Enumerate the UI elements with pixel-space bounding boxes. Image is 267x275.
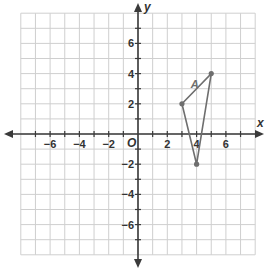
x-axis-label: x <box>256 116 265 130</box>
triangle-label: A <box>190 78 199 90</box>
x-tick-label: −6 <box>44 138 57 150</box>
origin-label: O <box>127 136 137 150</box>
vertex-point <box>194 162 199 167</box>
y-axis-label: y <box>143 0 152 14</box>
y-axis-down-arrow-icon <box>134 259 142 268</box>
vertex-point <box>209 71 214 76</box>
vertex-point <box>179 101 184 106</box>
y-tick-label: −2 <box>121 158 134 170</box>
y-tick-label: 2 <box>128 98 134 110</box>
x-axis-right-arrow-icon <box>255 130 264 138</box>
y-tick-label: −6 <box>121 219 134 231</box>
coordinate-plane: −6−4−2246642−2−4−6 x y O A <box>0 0 267 275</box>
y-tick-label: 4 <box>128 68 135 80</box>
y-axis-up-arrow-icon <box>134 3 142 12</box>
x-tick-label: 6 <box>223 138 229 150</box>
x-tick-label: −2 <box>102 138 115 150</box>
y-tick-label: −4 <box>121 188 134 200</box>
x-tick-label: 2 <box>164 138 170 150</box>
x-tick-label: −4 <box>73 138 86 150</box>
y-tick-label: 6 <box>128 37 134 49</box>
x-axis-left-arrow-icon <box>4 130 13 138</box>
